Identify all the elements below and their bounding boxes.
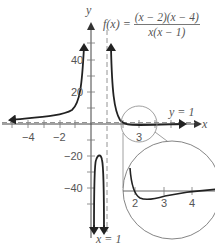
inset-tick-label: 2 <box>132 197 138 209</box>
formula-denominator: x(x − 1) <box>148 25 185 38</box>
asymptote-h-label: y = 1 <box>168 105 194 119</box>
asymptote-v-label: x = 1 <box>95 232 121 245</box>
y-tick-label: −20 <box>64 150 83 162</box>
formula-numerator: (x − 2)(x − 4) <box>134 11 200 25</box>
y-tick-label: −40 <box>64 182 83 194</box>
y-axis-label: y <box>85 3 92 17</box>
inset-tick-label: 3 <box>161 197 167 209</box>
inset-magnified-view <box>120 141 215 239</box>
x-tick-label: 3 <box>136 131 142 143</box>
x-tick-label: −4 <box>22 131 35 143</box>
x-tick-label: −2 <box>53 131 66 143</box>
inset-tick-label: 4 <box>189 197 195 209</box>
y-tick-label: 20 <box>71 86 83 98</box>
x-axis-label: x <box>201 117 208 131</box>
y-tick-label: 40 <box>71 54 83 66</box>
curve-middle-branch <box>94 156 104 232</box>
function-formula: f(x) = (x − 2)(x − 4) x(x − 1) <box>103 11 200 38</box>
formula-fraction: (x − 2)(x − 4) x(x − 1) <box>134 11 200 38</box>
formula-lhs: f(x) = <box>103 17 131 32</box>
